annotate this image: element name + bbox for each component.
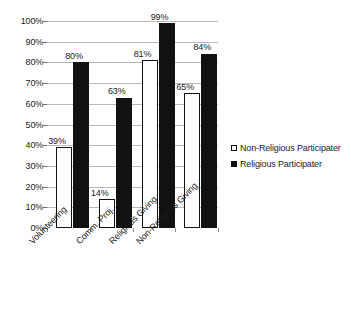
bar-value-label: 80% [61, 51, 87, 61]
y-axis-tick-label: 90% [0, 38, 43, 47]
bar-value-label: 84% [189, 42, 215, 52]
legend-label: Religious Participater [240, 159, 347, 170]
y-axis-tick-label: 100% [0, 17, 43, 26]
bar-value-label: 63% [104, 86, 130, 96]
bar-religious-volunteering [73, 62, 89, 228]
y-axis-tick-label: 20% [0, 183, 43, 192]
y-axis-tick [43, 83, 47, 84]
bar-value-label: 65% [172, 82, 198, 92]
y-axis-tick [43, 104, 47, 105]
y-axis-tick-label: 50% [0, 121, 43, 130]
y-axis-tick [43, 21, 47, 22]
y-axis-tick-label: 40% [0, 141, 43, 150]
y-axis-tick-label: 70% [0, 79, 43, 88]
bar-value-label: 99% [147, 12, 173, 22]
y-axis-tick-label: 10% [0, 203, 43, 212]
y-axis-tick-label: 60% [0, 100, 43, 109]
y-axis-tick [43, 62, 47, 63]
x-axis-tick [175, 228, 176, 232]
bar-religious-religious-giving [159, 23, 175, 228]
bar-value-label: 14% [87, 188, 113, 198]
y-axis-tick-label: 30% [0, 162, 43, 171]
x-axis-tick [218, 228, 219, 232]
legend-item-non-religious-participater: Non-Religious Participater [231, 143, 347, 154]
legend-label: Non-Religious Participater [240, 143, 347, 154]
bar-nonreligious-nonreligious-giving [184, 93, 200, 228]
chart-legend: Non-Religious Participater Religious Par… [231, 143, 347, 175]
y-axis-tick [43, 166, 47, 167]
open-square-icon [231, 145, 237, 151]
gridline [47, 21, 218, 22]
y-axis-tick-label: 80% [0, 58, 43, 67]
bar-religious-nonreligious-giving [201, 54, 217, 228]
bar-chart: 100% 90% 80% 70% 60% 50% 40% 30% 20% 10%… [0, 0, 351, 323]
x-axis-tick [133, 228, 134, 232]
bar-value-label: 39% [44, 136, 70, 146]
y-axis-tick [43, 207, 47, 208]
y-axis-tick [43, 187, 47, 188]
bar-religious-comm-proj [116, 98, 132, 228]
y-axis-tick [43, 125, 47, 126]
filled-square-icon [231, 161, 237, 167]
y-axis-tick [43, 42, 47, 43]
bar-value-label: 81% [130, 49, 156, 59]
legend-item-religious-participater: Religious Participater [231, 159, 347, 170]
